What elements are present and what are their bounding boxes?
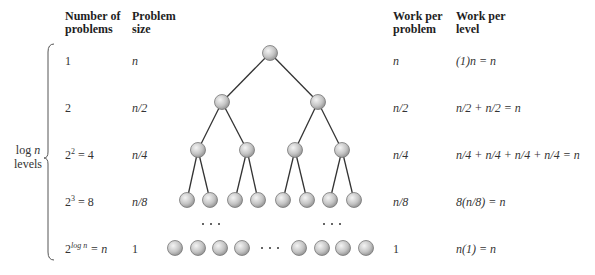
node-l4 xyxy=(276,193,291,208)
recursion-tree-diagram xyxy=(0,0,595,275)
node-leaf xyxy=(213,241,228,256)
node-root xyxy=(263,46,278,61)
tree-nodes xyxy=(168,46,374,256)
node-l3 xyxy=(240,143,255,158)
node-l4 xyxy=(300,193,315,208)
levels-brace xyxy=(44,44,54,260)
node-leaf xyxy=(235,241,250,256)
node-l3 xyxy=(191,143,206,158)
node-l2 xyxy=(311,95,326,110)
node-l2 xyxy=(215,95,230,110)
node-leaf xyxy=(336,241,351,256)
node-l4 xyxy=(203,193,218,208)
node-l4 xyxy=(180,193,195,208)
tree-edges xyxy=(187,53,354,200)
node-leaf xyxy=(191,241,206,256)
node-l4 xyxy=(251,193,266,208)
node-leaf xyxy=(292,241,307,256)
node-l3 xyxy=(335,143,350,158)
node-leaf xyxy=(168,241,183,256)
node-l4 xyxy=(228,193,243,208)
node-l4 xyxy=(323,193,338,208)
node-l4 xyxy=(347,193,362,208)
node-l3 xyxy=(288,143,303,158)
node-leaf xyxy=(359,241,374,256)
node-leaf xyxy=(315,241,330,256)
